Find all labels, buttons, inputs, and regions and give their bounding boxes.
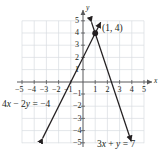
x-tick-label-4: 4 [130,86,134,94]
y-tick-label-1: 1 [75,66,79,74]
x-tick-label--5: −5 [15,86,24,94]
equation-label-line2: 3x + y = 7 [97,140,135,150]
x-axis-name: x [154,77,157,85]
y-tick-label--5: −5 [73,139,82,147]
equation-label-line1: 4x − 2y = −4 [2,100,50,110]
y-tick-label-4: 4 [75,29,79,37]
eq1-rhs: = −4 [30,99,50,109]
y-axis-name: y [86,4,89,12]
y-tick-label--3: −3 [73,115,82,123]
x-tick-label--3: −3 [40,86,49,94]
y-tick-label--2: −2 [73,102,82,110]
coordinate-graph-figure: −5 −4 −3 −2 −1 1 2 3 4 5 5 4 3 2 1 −1 −2… [0,0,161,152]
x-tick-label--1: −1 [64,86,73,94]
eq2-rhs: = 7 [120,139,135,149]
x-tick-label-1: 1 [93,86,97,94]
eq2-mid: + [106,139,116,149]
y-tick-label--1: −1 [73,90,82,98]
eq1-mid: − 2 [11,99,26,109]
y-tick-label-5: 5 [75,17,79,25]
line-4x-2y-eq-neg4 [43,22,101,138]
x-tick-label-5: 5 [142,86,146,94]
y-tick-label--4: −4 [73,127,82,135]
x-tick-label-2: 2 [105,86,109,94]
point-label-1-4: (1, 4) [102,24,123,34]
x-tick-label--4: −4 [28,86,37,94]
y-tick-label-3: 3 [75,41,79,49]
x-tick-label-3: 3 [118,86,122,94]
y-tick-label-2: 2 [75,54,79,62]
intersection-point-marker [92,30,98,36]
x-tick-label--2: −2 [52,86,61,94]
